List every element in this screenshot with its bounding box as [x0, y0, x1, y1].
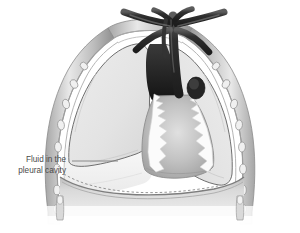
callout-label-line2: pleural cavity — [18, 166, 67, 175]
lower-fade-mask-2 — [0, 216, 300, 233]
chest-cross-section-figure: Fluid in the pleural cavity — [0, 0, 300, 233]
illustration-page: Fluid in the pleural cavity — [0, 0, 300, 233]
callout-label-line1: Fluid in the — [26, 155, 66, 164]
